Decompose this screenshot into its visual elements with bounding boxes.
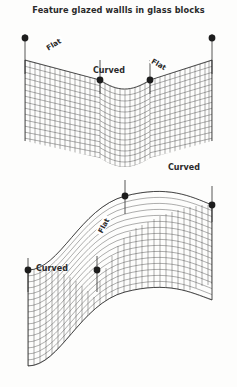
upper-left-panel-mesh [24, 55, 101, 166]
label-curved-lower-crest: Curved [168, 163, 200, 172]
upper-right-panel-mesh [149, 55, 213, 166]
upper-wall-figure [0, 0, 237, 387]
label-curved-upper-centre: Curved [93, 66, 125, 75]
setting-out-marker [25, 258, 32, 292]
upper-centre-panel-mesh [99, 76, 151, 174]
lower-wall-mesh [27, 191, 213, 370]
label-curved-lower-trough: Curved [36, 264, 68, 273]
illustration-page: Feature glazed wallls in glass blocks [0, 0, 237, 387]
setting-out-marker [209, 34, 216, 74]
setting-out-marker [22, 34, 29, 74]
setting-out-marker [209, 186, 216, 222]
